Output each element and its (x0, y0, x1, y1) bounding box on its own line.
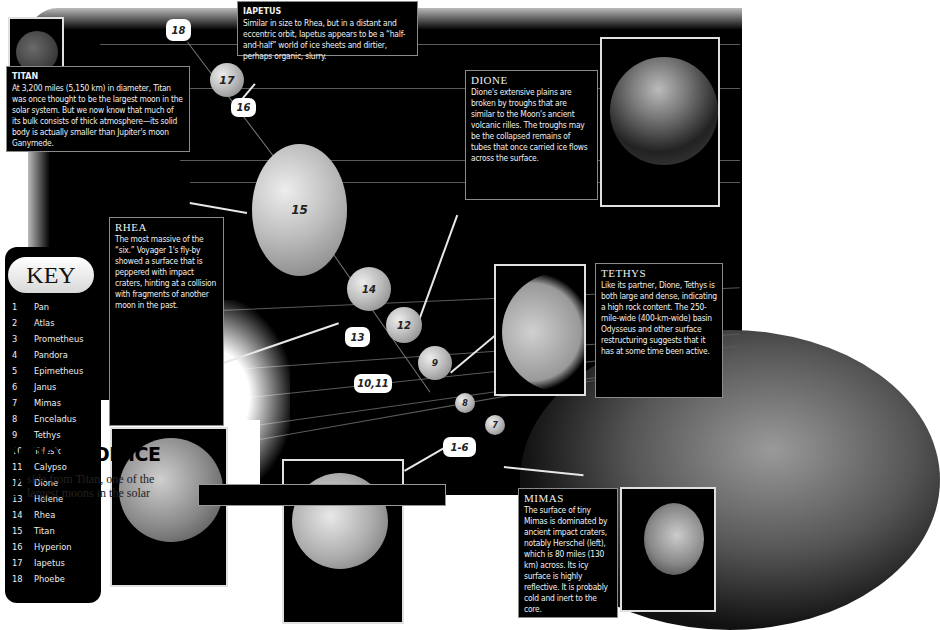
moon-marker-17: 17 (210, 63, 244, 97)
key-heading: KEY (8, 257, 94, 293)
key-item: 2Atlas (12, 315, 98, 331)
moon-tag-16: 16 (231, 98, 256, 117)
callout-iapetus-title: IAPETUS (243, 6, 412, 17)
key-item: 6Janus (12, 379, 98, 395)
callout-iapetus: IAPETUS Similar in size to Rhea, but in … (237, 1, 418, 56)
moon-tag-10-11: 10,11 (354, 374, 392, 393)
moon-tag-13: 13 (345, 327, 370, 347)
callout-dione-text: Dione's extensive plains are broken by t… (471, 87, 588, 163)
key-item: 1Pan (12, 299, 98, 315)
key-item: 3Prometheus (12, 331, 98, 347)
callout-mimas-title: MIMAS (524, 493, 612, 504)
tethys-photo (494, 264, 586, 396)
intro-line-1: side from Titan, one of the (27, 472, 154, 486)
callout-tethys-title: TETHYS (601, 268, 717, 279)
callout-titan-title: TITAN (12, 71, 184, 82)
key-item: 14Rhea (12, 507, 98, 523)
key-item: 9Tethys (12, 427, 98, 443)
dione-photo (600, 37, 720, 207)
moon-marker-7: 7 (485, 415, 505, 435)
callout-rhea-title: RHEA (115, 222, 218, 233)
key-item: 5Epimetheus (12, 363, 98, 379)
key-item: 17Iapetus (12, 555, 98, 571)
callout-mimas: MIMAS The surface of tiny Mimas is domin… (518, 488, 618, 618)
moon-marker-9: 9 (418, 346, 452, 380)
callout-tethys: TETHYS Like its partner, Dione, Tethys i… (595, 263, 723, 398)
moon-marker-14: 14 (347, 267, 391, 311)
callout-tethys-text: Like its partner, Dione, Tethys is both … (601, 280, 717, 356)
key-item: 7Mimas (12, 395, 98, 411)
moon-tag-18: 18 (166, 19, 191, 41)
caption-box (198, 484, 446, 506)
mimas-photo (620, 487, 716, 612)
intro-line-2: largest moons in the solar (27, 486, 154, 500)
callout-rhea-text: The most massive of the “six.” Voyager 1… (115, 234, 216, 310)
key-item: 18Phoebe (12, 571, 98, 587)
key-item: 8Enceladus (12, 411, 98, 427)
callout-titan: TITAN At 3,200 miles (5,150 km) in diame… (6, 66, 190, 152)
intro-text: side from Titan, one of the largest moon… (27, 472, 154, 500)
callout-dione-title: DIONE (471, 75, 592, 86)
callout-dione: DIONE Dione's extensive plains are broke… (465, 70, 598, 200)
moon-tag-1-6: 1-6 (443, 437, 476, 457)
moon-marker-12: 12 (386, 307, 422, 343)
callout-iapetus-text: Similar in size to Rhea, but in a distan… (243, 18, 405, 61)
key-item: 4Pandora (12, 347, 98, 363)
moon-marker-8: 8 (455, 393, 475, 413)
callout-rhea: RHEA The most massive of the “six.” Voya… (109, 217, 224, 426)
callout-titan-text: At 3,200 miles (5,150 km) in diameter, T… (12, 83, 183, 148)
callout-mimas-text: The surface of tiny Mimas is dominated b… (524, 505, 608, 614)
key-item: 16Hyperion (12, 539, 98, 555)
moon-marker-15: 15 (252, 144, 347, 276)
key-item: 15Titan (12, 523, 98, 539)
section-heading: MOONS OF ICE (9, 442, 160, 466)
